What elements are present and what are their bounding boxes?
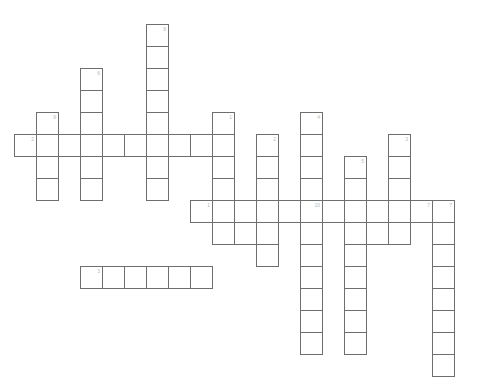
crossword-cell[interactable]	[344, 288, 367, 311]
cell-number: 3	[405, 136, 408, 142]
crossword-cell[interactable]	[300, 178, 323, 201]
crossword-cell[interactable]	[344, 200, 367, 223]
crossword-cell[interactable]	[344, 332, 367, 355]
crossword-cell[interactable]	[212, 178, 235, 201]
crossword-cell[interactable]	[432, 266, 455, 289]
crossword-cell[interactable]: 9	[36, 112, 59, 135]
crossword-cell[interactable]	[388, 178, 411, 201]
crossword-cell[interactable]: 2	[256, 134, 279, 157]
crossword-cell[interactable]	[300, 266, 323, 289]
crossword-cell[interactable]	[432, 244, 455, 267]
crossword-cell[interactable]	[256, 222, 279, 245]
crossword-cell[interactable]	[36, 156, 59, 179]
crossword-cell[interactable]: 2	[14, 134, 37, 157]
crossword-cell[interactable]	[36, 178, 59, 201]
crossword-cell[interactable]	[234, 222, 257, 245]
crossword-cell[interactable]	[102, 266, 125, 289]
crossword-cell[interactable]	[146, 46, 169, 69]
crossword-cell[interactable]	[146, 112, 169, 135]
crossword-cell[interactable]: 3	[388, 134, 411, 157]
crossword-cell[interactable]	[300, 156, 323, 179]
crossword-cell[interactable]	[146, 90, 169, 113]
crossword-cell[interactable]	[366, 222, 389, 245]
crossword-cell[interactable]: 10	[300, 200, 323, 223]
cell-number: 9	[53, 114, 56, 120]
crossword-cell[interactable]	[388, 156, 411, 179]
crossword-cell[interactable]	[234, 200, 257, 223]
crossword-cell[interactable]	[80, 112, 103, 135]
crossword-cell[interactable]	[146, 134, 169, 157]
crossword-cell[interactable]	[212, 200, 235, 223]
crossword-cell[interactable]	[124, 134, 147, 157]
crossword-cell[interactable]	[80, 156, 103, 179]
cell-number: 1	[207, 202, 210, 208]
crossword-cell[interactable]	[80, 134, 103, 157]
crossword-cell[interactable]	[256, 156, 279, 179]
crossword-cell[interactable]	[146, 266, 169, 289]
crossword-cell[interactable]	[190, 266, 213, 289]
crossword-cell[interactable]	[102, 134, 125, 157]
crossword-cell[interactable]	[344, 310, 367, 333]
crossword-cell[interactable]	[432, 310, 455, 333]
crossword-cell[interactable]	[278, 200, 301, 223]
cell-number: 2	[273, 136, 276, 142]
crossword-cell[interactable]	[256, 244, 279, 267]
crossword-cell[interactable]: 7	[432, 200, 455, 223]
crossword-cell[interactable]	[432, 354, 455, 377]
crossword-cell[interactable]	[300, 310, 323, 333]
crossword-cell[interactable]	[366, 200, 389, 223]
cell-number: 8	[163, 26, 166, 32]
crossword-cell[interactable]: 6	[80, 68, 103, 91]
cell-number: 4	[317, 114, 320, 120]
crossword-cell[interactable]	[300, 244, 323, 267]
crossword-cell[interactable]	[432, 222, 455, 245]
crossword-cell[interactable]: 1	[190, 200, 213, 223]
crossword-cell[interactable]	[432, 332, 455, 355]
crossword-grid[interactable]: 211077396812453	[0, 0, 479, 392]
crossword-cell[interactable]: 4	[300, 112, 323, 135]
crossword-cell[interactable]	[300, 134, 323, 157]
crossword-cell[interactable]: 8	[146, 24, 169, 47]
crossword-cell[interactable]: 7	[410, 200, 433, 223]
crossword-cell[interactable]: 5	[344, 156, 367, 179]
crossword-cell[interactable]	[344, 266, 367, 289]
crossword-cell[interactable]	[36, 134, 59, 157]
crossword-cell[interactable]	[256, 200, 279, 223]
crossword-cell[interactable]	[344, 244, 367, 267]
crossword-cell[interactable]	[146, 68, 169, 91]
crossword-cell[interactable]	[388, 200, 411, 223]
crossword-cell[interactable]	[300, 332, 323, 355]
crossword-cell[interactable]	[146, 156, 169, 179]
cell-number: 2	[31, 136, 34, 142]
crossword-cell[interactable]	[432, 288, 455, 311]
crossword-cell[interactable]	[322, 200, 345, 223]
crossword-cell[interactable]	[256, 178, 279, 201]
crossword-cell[interactable]	[58, 134, 81, 157]
crossword-cell[interactable]	[212, 156, 235, 179]
crossword-cell[interactable]: 3	[80, 266, 103, 289]
cell-number: 5	[361, 158, 364, 164]
crossword-cell[interactable]	[344, 178, 367, 201]
crossword-cell[interactable]	[124, 266, 147, 289]
crossword-cell[interactable]	[344, 222, 367, 245]
crossword-cell[interactable]	[80, 90, 103, 113]
cell-number: 1	[229, 114, 232, 120]
cell-number: 7	[449, 202, 452, 208]
crossword-cell[interactable]	[212, 134, 235, 157]
crossword-cell[interactable]	[168, 134, 191, 157]
crossword-cell[interactable]	[300, 288, 323, 311]
cell-number: 10	[314, 202, 320, 208]
crossword-cell[interactable]	[190, 134, 213, 157]
crossword-cell[interactable]	[80, 178, 103, 201]
crossword-cell[interactable]	[168, 266, 191, 289]
cell-number: 6	[97, 70, 100, 76]
cell-number: 7	[427, 202, 430, 208]
crossword-cell[interactable]	[146, 178, 169, 201]
crossword-cell[interactable]	[388, 222, 411, 245]
cell-number: 3	[97, 268, 100, 274]
crossword-cell[interactable]	[300, 222, 323, 245]
crossword-cell[interactable]: 1	[212, 112, 235, 135]
crossword-cell[interactable]	[212, 222, 235, 245]
